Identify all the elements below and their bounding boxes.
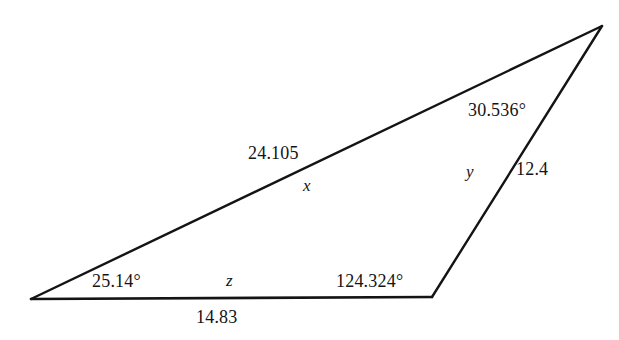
angle-label-left-vertex: 25.14°	[92, 272, 141, 290]
angle-label-bottom-right-vertex: 124.324°	[336, 272, 403, 290]
side-variable-label-y: y	[466, 163, 474, 180]
side-variable-label-z: z	[226, 272, 233, 289]
triangle-diagram: 24.105 x 30.536° y 12.4 25.14° z 124.324…	[0, 0, 619, 340]
side-length-label-1483: 14.83	[196, 308, 238, 326]
side-length-label-24105: 24.105	[248, 144, 299, 162]
side-variable-label-x: x	[303, 177, 311, 194]
side-length-label-124: 12.4	[516, 160, 548, 178]
angle-label-apex: 30.536°	[468, 101, 526, 119]
triangle-side-base	[31, 297, 432, 299]
